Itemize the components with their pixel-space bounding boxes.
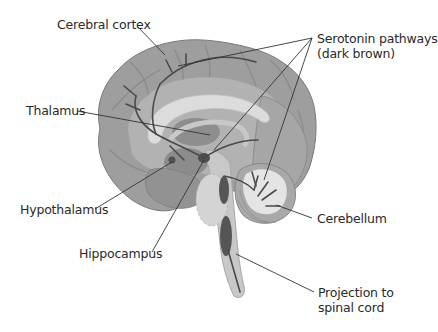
label-projection-line1: Projection to bbox=[318, 285, 394, 300]
label-serotonin-line2: (dark brown) bbox=[317, 46, 438, 61]
raphe-nucleus-upper bbox=[219, 176, 229, 204]
label-projection-line2: spinal cord bbox=[318, 300, 394, 315]
label-hypothalamus: Hypothalamus bbox=[20, 202, 108, 217]
label-hippocampus: Hippocampus bbox=[79, 246, 162, 261]
label-cerebral-cortex: Cerebral cortex bbox=[57, 17, 151, 32]
label-cerebellum: Cerebellum bbox=[317, 211, 387, 226]
label-serotonin-line1: Serotonin pathways bbox=[317, 31, 438, 46]
label-projection-spinal-cord: Projection to spinal cord bbox=[318, 285, 394, 315]
raphe-nucleus-lower bbox=[220, 216, 232, 256]
label-thalamus: Thalamus bbox=[26, 103, 85, 118]
leader-projection bbox=[236, 254, 314, 292]
label-serotonin-pathways: Serotonin pathways (dark brown) bbox=[317, 31, 438, 61]
